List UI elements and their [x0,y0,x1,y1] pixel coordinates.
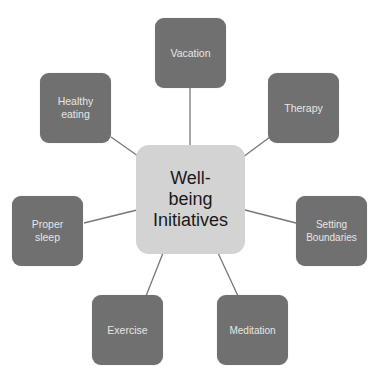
node-proper-sleep: Proper sleep [12,196,83,266]
node-label: Proper sleep [32,218,64,244]
node-setting-boundaries: Setting Boundaries [296,196,367,266]
node-meditation: Meditation [217,295,288,365]
connector-meditation [218,253,238,296]
connector-exercise [146,253,163,296]
connector-therapy [243,137,270,157]
center-node-label: Well- being Initiatives [153,168,228,231]
connector-proper-sleep [84,210,137,223]
connector-setting-boundaries [245,210,296,223]
node-vacation: Vacation [155,18,226,88]
node-label: Vacation [170,47,210,60]
node-healthy-eating: Healthy eating [40,73,111,143]
node-label: Exercise [107,324,147,337]
node-therapy: Therapy [268,73,339,143]
node-label: Meditation [229,324,275,337]
node-label: Setting Boundaries [306,218,357,244]
node-label: Healthy eating [58,95,94,121]
center-node-well-being-initiatives: Well- being Initiatives [136,145,245,254]
node-exercise: Exercise [92,295,163,365]
connector-healthy-eating [111,137,138,156]
node-label: Therapy [284,102,323,115]
